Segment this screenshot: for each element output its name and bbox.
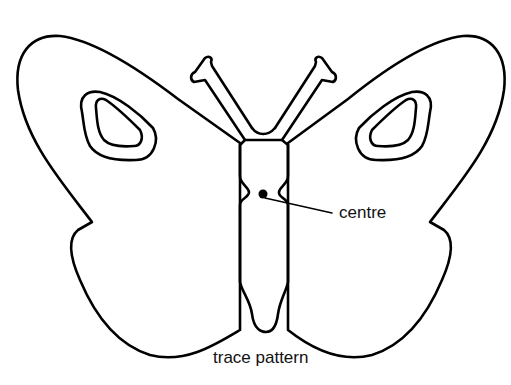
left-eyespot-outer xyxy=(81,92,156,161)
centre-leader-line xyxy=(265,198,332,213)
right-eyespot-outer xyxy=(356,92,431,161)
antenna-join xyxy=(252,128,275,134)
right-eyespot-inner xyxy=(370,99,416,146)
left-antenna xyxy=(191,57,252,140)
centre-label: centre xyxy=(339,203,386,223)
butterfly-diagram xyxy=(0,0,511,385)
trace-pattern-caption: trace pattern xyxy=(213,348,308,368)
right-antenna xyxy=(275,57,336,140)
body xyxy=(240,140,288,332)
left-eyespot-inner xyxy=(96,99,142,146)
centre-dot xyxy=(259,190,268,199)
